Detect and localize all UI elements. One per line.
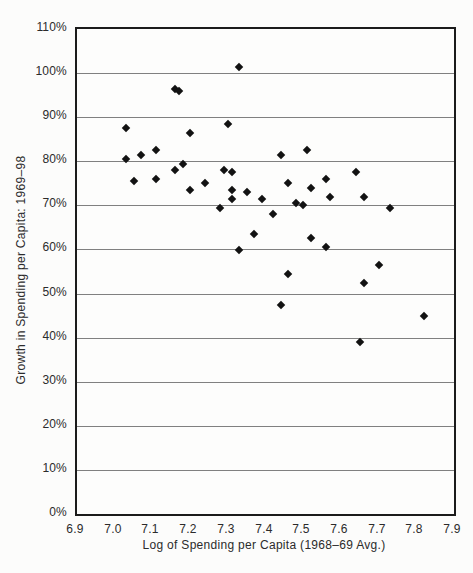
data-point-marker bbox=[227, 195, 235, 203]
data-point-marker bbox=[356, 338, 364, 346]
data-point-marker bbox=[359, 192, 367, 200]
data-point-marker bbox=[129, 177, 137, 185]
data-point-marker bbox=[303, 146, 311, 154]
data-point-marker bbox=[322, 243, 330, 251]
data-point-marker bbox=[152, 146, 160, 154]
x-tick-label: 7.9 bbox=[430, 522, 473, 536]
y-tick-label: 90% bbox=[15, 108, 67, 122]
gridline bbox=[77, 205, 454, 206]
data-point-marker bbox=[284, 179, 292, 187]
data-point-marker bbox=[276, 150, 284, 158]
gridline bbox=[77, 249, 454, 250]
data-point-marker bbox=[220, 166, 228, 174]
y-tick-label: 0% bbox=[15, 505, 67, 519]
data-point-marker bbox=[122, 124, 130, 132]
data-point-marker bbox=[276, 300, 284, 308]
data-point-marker bbox=[352, 168, 360, 176]
y-axis-title: Growth in Spending per Capita: 1969–98 bbox=[14, 156, 28, 385]
data-point-marker bbox=[284, 269, 292, 277]
gridline bbox=[77, 382, 454, 383]
y-tick-label: 10% bbox=[15, 461, 67, 475]
scatter-chart: 0%10%20%30%40%50%60%70%80%90%100%110% 6.… bbox=[0, 0, 473, 573]
data-point-marker bbox=[137, 150, 145, 158]
gridline bbox=[77, 470, 454, 471]
data-point-marker bbox=[322, 175, 330, 183]
y-tick-label: 110% bbox=[15, 20, 67, 34]
data-point-marker bbox=[306, 183, 314, 191]
data-point-marker bbox=[235, 245, 243, 253]
data-point-marker bbox=[257, 195, 265, 203]
data-point-marker bbox=[242, 188, 250, 196]
data-point-marker bbox=[374, 261, 382, 269]
data-point-marker bbox=[235, 62, 243, 70]
gridline bbox=[77, 426, 454, 427]
y-tick-label: 20% bbox=[15, 417, 67, 431]
data-point-marker bbox=[299, 201, 307, 209]
data-point-marker bbox=[359, 278, 367, 286]
data-point-marker bbox=[325, 192, 333, 200]
data-point-marker bbox=[186, 128, 194, 136]
data-point-marker bbox=[122, 155, 130, 163]
gridline bbox=[77, 338, 454, 339]
data-point-marker bbox=[152, 175, 160, 183]
x-axis-title: Log of Spending per Capita (1968–69 Avg.… bbox=[143, 538, 386, 552]
data-point-marker bbox=[250, 230, 258, 238]
data-point-marker bbox=[186, 186, 194, 194]
data-point-marker bbox=[306, 234, 314, 242]
y-tick-label: 100% bbox=[15, 64, 67, 78]
data-point-marker bbox=[171, 166, 179, 174]
gridline bbox=[77, 117, 454, 118]
data-point-marker bbox=[201, 179, 209, 187]
data-point-marker bbox=[227, 168, 235, 176]
data-point-marker bbox=[227, 186, 235, 194]
data-point-marker bbox=[420, 311, 428, 319]
gridline bbox=[77, 73, 454, 74]
plot-area bbox=[75, 27, 456, 516]
data-point-marker bbox=[269, 210, 277, 218]
gridline bbox=[77, 294, 454, 295]
gridline bbox=[77, 161, 454, 162]
data-point-marker bbox=[224, 120, 232, 128]
